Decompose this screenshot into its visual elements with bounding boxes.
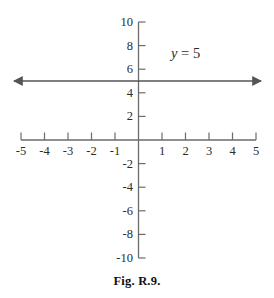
y-tick-label-neg10: -10 bbox=[97, 252, 133, 265]
x-tick-label-2: 2 bbox=[182, 145, 188, 158]
equation-relation: = bbox=[177, 45, 192, 61]
x-tick-label-1: 1 bbox=[159, 145, 165, 158]
y-tick-label-4: 4 bbox=[105, 87, 133, 100]
y-tick-label-2: 2 bbox=[105, 110, 133, 123]
x-tick-label-5: 5 bbox=[253, 145, 259, 158]
equation-value: 5 bbox=[193, 45, 200, 61]
figure-container: 10 8 6 4 2 -2 -4 -6 -8 -10 -5 -4 -3 -2 -… bbox=[0, 0, 274, 298]
x-tick-label-neg5: -5 bbox=[16, 145, 26, 158]
x-tick-label-neg3: -3 bbox=[63, 145, 73, 158]
equation-annotation: y = 5 bbox=[171, 45, 200, 62]
y-tick-label-6: 6 bbox=[105, 63, 133, 76]
y-tick-label-10: 10 bbox=[105, 16, 133, 29]
y-tick-label-neg4: -4 bbox=[101, 181, 133, 194]
x-tick-label-3: 3 bbox=[206, 145, 212, 158]
figure-caption: Fig. R.9. bbox=[0, 274, 274, 289]
y-tick-label-neg6: -6 bbox=[101, 205, 133, 218]
x-tick-label-4: 4 bbox=[229, 145, 235, 158]
x-tick-label-neg2: -2 bbox=[86, 145, 96, 158]
y-tick-label-8: 8 bbox=[105, 39, 133, 52]
y-tick-label-neg2: -2 bbox=[101, 157, 133, 170]
x-tick-label-neg1: -1 bbox=[110, 145, 120, 158]
y-tick-label-neg8: -8 bbox=[101, 228, 133, 241]
x-tick-label-neg4: -4 bbox=[39, 145, 49, 158]
